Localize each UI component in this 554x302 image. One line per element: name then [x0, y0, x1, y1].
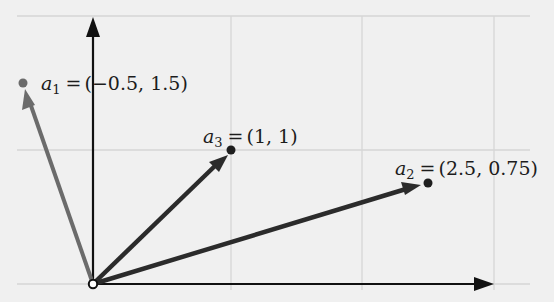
- label-a3: a3=(1, 1): [203, 125, 298, 150]
- axes: [86, 17, 494, 291]
- label-a2: a2=(2.5, 0.75): [395, 157, 538, 182]
- y-axis-arrowhead-icon: [86, 17, 100, 37]
- vector-diagram: a1=(−0.5, 1.5) a3=(1, 1) a2=(2.5, 0.75): [0, 0, 554, 302]
- origin-point: [89, 280, 97, 288]
- vector-a1: [19, 79, 94, 285]
- x-axis-arrowhead-icon: [474, 277, 494, 291]
- vector-a2-arrowhead-icon: [401, 182, 421, 195]
- label-a1: a1=(−0.5, 1.5): [41, 72, 188, 97]
- diagram-canvas: a1=(−0.5, 1.5) a3=(1, 1) a2=(2.5, 0.75): [0, 0, 554, 302]
- vector-a1-endpoint: [19, 79, 28, 88]
- vector-a2-endpoint: [424, 179, 433, 188]
- vector-a2: [93, 179, 433, 285]
- vector-a1-shaft: [29, 100, 93, 284]
